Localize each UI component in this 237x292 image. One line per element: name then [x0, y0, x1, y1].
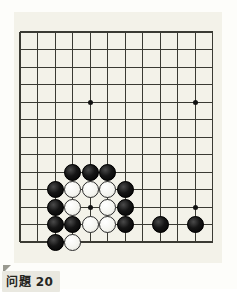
white-stone[interactable] [64, 199, 81, 216]
black-stone[interactable] [99, 164, 116, 181]
black-stone[interactable] [47, 199, 64, 216]
white-stone[interactable] [82, 216, 99, 233]
black-stone[interactable] [64, 216, 81, 233]
white-stone[interactable] [82, 181, 99, 198]
star-point [88, 100, 93, 105]
white-stone[interactable] [99, 181, 116, 198]
black-stone[interactable] [47, 181, 64, 198]
black-stone[interactable] [117, 199, 134, 216]
black-stone[interactable] [152, 216, 169, 233]
white-stone[interactable] [99, 216, 116, 233]
star-point [193, 205, 198, 210]
black-stone[interactable] [64, 164, 81, 181]
go-board[interactable] [14, 12, 222, 263]
figure-caption: 问題 20 [0, 264, 237, 289]
black-stone[interactable] [47, 216, 64, 233]
white-stone[interactable] [99, 199, 116, 216]
caption-label: 问題 20 [6, 275, 53, 289]
star-point [88, 205, 93, 210]
white-stone[interactable] [64, 181, 81, 198]
black-stone[interactable] [117, 181, 134, 198]
caption-box: 问題 20 [2, 271, 60, 292]
black-stone[interactable] [47, 234, 64, 251]
black-stone[interactable] [187, 216, 204, 233]
star-point [193, 100, 198, 105]
black-stone[interactable] [117, 216, 134, 233]
white-stone[interactable] [64, 234, 81, 251]
black-stone[interactable] [82, 164, 99, 181]
